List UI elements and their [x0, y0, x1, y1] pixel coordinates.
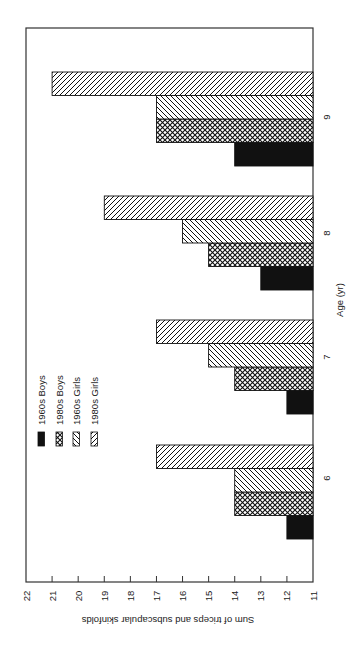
bar-1980s-girls-age-6 — [157, 445, 314, 469]
category-label-7: 7 — [321, 354, 332, 359]
tick-label: 18 — [125, 591, 136, 602]
category-label-8: 8 — [321, 230, 332, 235]
bar-1980s-boys-age-7 — [235, 367, 313, 391]
tick-label: 20 — [73, 591, 84, 602]
bar-1980s-boys-age-9 — [157, 119, 314, 143]
bar-1960s-boys-age-8 — [261, 267, 313, 291]
legend-label-1980s-girls: 1980s Girls — [89, 377, 100, 425]
bar-1960s-girls-age-9 — [157, 96, 314, 120]
tick-label: 12 — [281, 591, 292, 602]
legend-swatch-1980s-boys — [56, 432, 63, 446]
bar-1960s-girls-age-6 — [235, 469, 313, 493]
value-axis: 222120191817161514131211 — [21, 576, 319, 601]
legend: 1960s Boys1980s Boys1960s Girls1980s Gir… — [36, 375, 100, 446]
tick-label: 22 — [21, 591, 32, 602]
tick-label: 13 — [255, 591, 266, 602]
y-axis-title: Sum of triceps and subscapular skinfolds — [81, 615, 254, 626]
legend-label-1980s-boys: 1980s Boys — [54, 375, 65, 425]
tick-label: 17 — [151, 591, 162, 602]
tick-label: 19 — [99, 591, 110, 602]
bar-1960s-boys-age-9 — [235, 143, 313, 167]
bar-1960s-girls-age-7 — [209, 344, 313, 368]
tick-label: 14 — [229, 591, 240, 602]
legend-swatch-1980s-girls — [91, 432, 98, 446]
tick-label: 11 — [308, 591, 319, 601]
legend-label-1960s-boys: 1960s Boys — [36, 375, 47, 425]
tick-label: 21 — [47, 591, 58, 602]
bar-chart: 222120191817161514131211 6789 1960s Boys… — [0, 0, 357, 646]
bars-group — [52, 72, 313, 539]
legend-label-1960s-girls: 1960s Girls — [71, 377, 82, 425]
bar-1980s-boys-age-6 — [235, 492, 313, 516]
category-label-6: 6 — [321, 475, 332, 480]
bar-1960s-girls-age-8 — [183, 220, 314, 244]
bar-1980s-girls-age-8 — [104, 196, 313, 220]
tick-label: 15 — [203, 591, 214, 602]
bar-1980s-girls-age-7 — [157, 320, 314, 344]
legend-swatch-1960s-boys — [38, 432, 45, 446]
bar-1960s-boys-age-6 — [287, 516, 313, 540]
bar-1980s-girls-age-9 — [52, 72, 313, 96]
bar-1980s-boys-age-8 — [209, 243, 313, 267]
category-label-9: 9 — [321, 114, 332, 119]
legend-swatch-1960s-girls — [73, 432, 80, 446]
tick-label: 16 — [177, 591, 188, 602]
category-axis: 6789 — [321, 114, 332, 480]
x-axis-title: Age (yr) — [334, 283, 345, 317]
bar-1960s-boys-age-7 — [287, 391, 313, 415]
